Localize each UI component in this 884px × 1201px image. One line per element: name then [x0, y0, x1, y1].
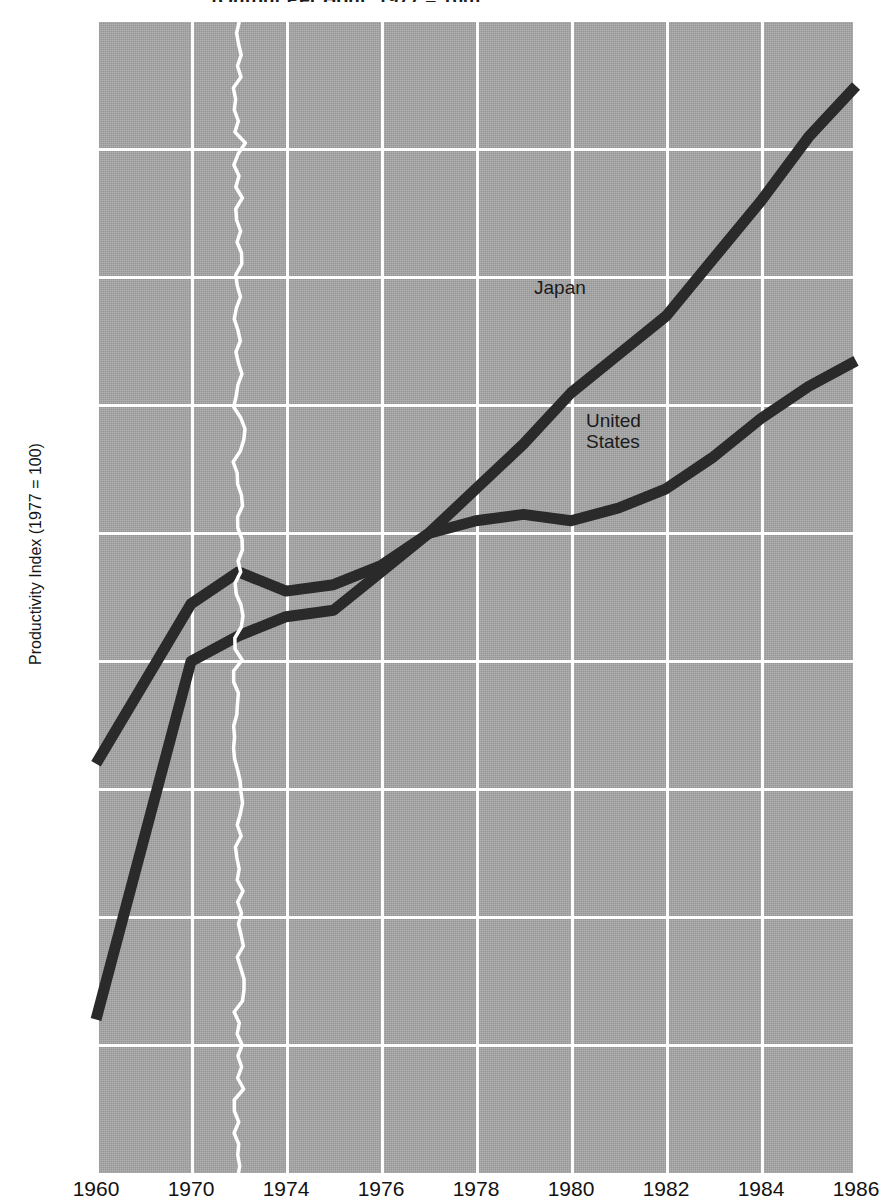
chart-title: (Output Per Hour, 1977 = 100) — [96, 0, 596, 2]
series-label-united-states: United States — [586, 410, 641, 453]
series-label-japan: Japan — [534, 277, 586, 298]
axis-break-marker — [233, 22, 245, 1173]
plot-area: Japan United States — [96, 22, 856, 1173]
series-line-united-states — [96, 361, 856, 764]
series-line-japan — [96, 86, 856, 1020]
x-axis-tick-label: 1986 — [796, 1178, 884, 1199]
series-lines — [96, 22, 856, 1173]
y-axis-title: Productivity Index (1977 = 100) — [27, 274, 45, 834]
